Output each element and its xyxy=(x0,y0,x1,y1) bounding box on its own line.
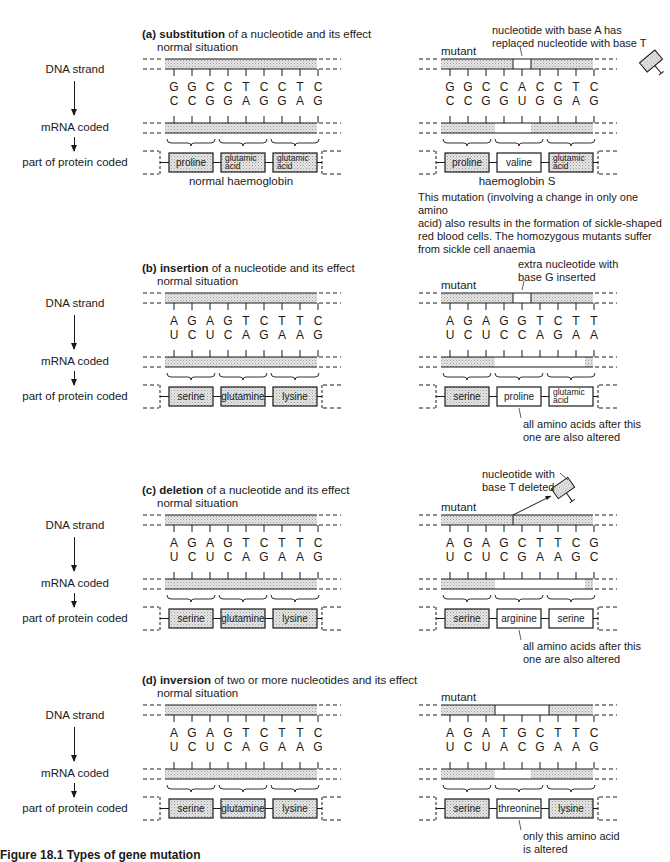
dna-base: C xyxy=(314,314,323,328)
dna-base: T xyxy=(242,314,250,328)
amino-acid-label: serine xyxy=(453,803,481,814)
mrna-base: A xyxy=(296,740,304,754)
mrna-base: C xyxy=(464,550,473,564)
dna-base: T xyxy=(296,80,304,94)
mrna-coded-label: mRNA coded xyxy=(0,355,150,367)
dna-base: G xyxy=(187,314,196,328)
dna-base: C xyxy=(536,726,545,740)
protein-coded-label: part of protein coded xyxy=(0,390,150,402)
dna-base: A xyxy=(170,726,178,740)
mrna-base: U xyxy=(446,550,455,564)
dna-base: C xyxy=(314,726,323,740)
mrna-base: G xyxy=(589,740,598,754)
mrna-base: C xyxy=(446,94,455,108)
mrna-base: U xyxy=(446,328,455,342)
dna-base: T xyxy=(242,536,250,550)
dna-base: T xyxy=(572,726,580,740)
mrna-base: G xyxy=(571,550,580,564)
dna-base: T xyxy=(572,80,580,94)
amino-acid-label: proline xyxy=(504,391,534,402)
arrow-down-icon xyxy=(74,371,75,385)
dna-base: G xyxy=(223,314,232,328)
dna-base: T xyxy=(554,536,562,550)
mrna-base: A xyxy=(242,328,250,342)
dna-base: T xyxy=(278,726,286,740)
mrna-base: C xyxy=(500,328,509,342)
mutant-caption: haemoglobin S xyxy=(441,175,593,187)
mrna-base: C xyxy=(224,550,233,564)
svg-text:acid: acid xyxy=(225,161,241,171)
dna-base: A xyxy=(206,314,214,328)
mrna-base: C xyxy=(224,740,233,754)
dna-base: C xyxy=(536,80,545,94)
dna-base: C xyxy=(554,314,563,328)
dna-base: T xyxy=(500,726,508,740)
amino-acid-label: serine xyxy=(177,391,205,402)
normal-situation-label: normal situation xyxy=(157,687,238,699)
protein-coded-label: part of protein coded xyxy=(0,156,150,168)
protein-coded-label: part of protein coded xyxy=(0,612,150,624)
detached-nucleotide-icon xyxy=(639,50,668,80)
amino-acid-label: serine xyxy=(177,613,205,624)
dna-base: C xyxy=(224,80,233,94)
mrna-base: G xyxy=(259,550,268,564)
dna-base: G xyxy=(463,536,472,550)
arrow-down-icon xyxy=(74,137,75,151)
mrna-base: G xyxy=(259,740,268,754)
mrna-base: C xyxy=(464,740,473,754)
dna-base: G xyxy=(445,80,454,94)
normal-situation-label: normal situation xyxy=(157,41,238,53)
mrna-base: G xyxy=(517,550,526,564)
dna-strand-label: DNA strand xyxy=(0,709,150,721)
svg-text:acid: acid xyxy=(553,161,569,171)
dna-base: G xyxy=(463,726,472,740)
dna-base: C xyxy=(500,80,509,94)
section-insertion: AUGCAUGCTACGTATACGserineglutaminelysineA… xyxy=(143,281,617,418)
mrna-base: U xyxy=(446,740,455,754)
mrna-base: G xyxy=(535,94,544,108)
mrna-base: C xyxy=(500,550,509,564)
mrna-coded-label: mRNA coded xyxy=(0,767,150,779)
svg-text:acid: acid xyxy=(277,161,293,171)
section-title: (a) substitution of a nucleotide and its… xyxy=(142,28,371,41)
mrna-base: A xyxy=(242,740,250,754)
mrna-base: C xyxy=(188,328,197,342)
svg-text:acid: acid xyxy=(553,395,569,405)
mrna-base: C xyxy=(188,550,197,564)
mrna-base: A xyxy=(242,550,250,564)
mutation-annotation: extra nucleotide withbase G inserted xyxy=(518,258,618,284)
dna-base: A xyxy=(446,536,454,550)
dna-base: A xyxy=(482,536,490,550)
arrow-down-icon xyxy=(74,81,75,115)
arrow-down-icon xyxy=(74,315,75,349)
amino-acid-label: serine xyxy=(557,613,585,624)
mrna-base: A xyxy=(296,94,304,108)
dna-base: C xyxy=(572,536,581,550)
section-title: (d) inversion of two or more nucleotides… xyxy=(142,674,417,687)
dna-base: G xyxy=(517,314,526,328)
normal-situation-label: normal situation xyxy=(157,275,238,287)
dna-base: G xyxy=(223,726,232,740)
mrna-base: C xyxy=(464,328,473,342)
mrna-base: U xyxy=(206,550,215,564)
mrna-base: C xyxy=(188,94,197,108)
mrna-base: G xyxy=(313,740,322,754)
dna-base: T xyxy=(536,314,544,328)
mrna-base: G xyxy=(277,94,286,108)
amino-acid-label: lysine xyxy=(282,803,308,814)
amino-acid-label: proline xyxy=(452,157,482,168)
dna-base: C xyxy=(554,80,563,94)
dna-base: G xyxy=(589,536,598,550)
amino-acid-label: glutamine xyxy=(221,613,265,624)
protein-coded-label: part of protein coded xyxy=(0,802,150,814)
dna-base: G xyxy=(187,80,196,94)
amino-acid-label: serine xyxy=(177,803,205,814)
mutant-label: mutant xyxy=(441,279,476,292)
section-inversion: AUGCAUGCTACGTATACGserineglutaminelysineA… xyxy=(143,705,617,830)
mrna-base: U xyxy=(518,94,527,108)
mrna-base: U xyxy=(170,328,179,342)
dna-base: A xyxy=(170,536,178,550)
mrna-base: A xyxy=(590,328,598,342)
mrna-base: U xyxy=(206,328,215,342)
dna-base: T xyxy=(536,536,544,550)
